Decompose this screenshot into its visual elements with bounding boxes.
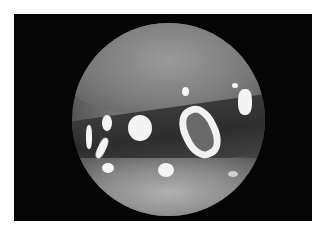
reflection-highlight (238, 89, 252, 115)
endoscope-view (72, 23, 265, 216)
reflection-highlight (158, 163, 174, 177)
reflection-highlight (228, 171, 238, 177)
reflection-highlight (182, 87, 189, 96)
reflection-highlight (86, 125, 92, 149)
image-frame (14, 14, 312, 221)
reflection-highlight (102, 163, 114, 173)
reflection-highlight (232, 83, 238, 88)
reflection-highlight (128, 115, 152, 141)
reflection-highlight (102, 115, 112, 131)
